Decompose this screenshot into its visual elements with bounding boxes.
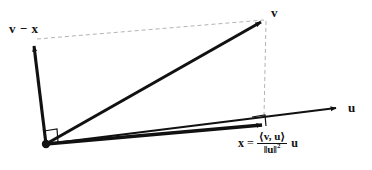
origin-point <box>42 140 50 148</box>
vector-projection-diagram: v − x v u x = ⟨v, u⟩ ‖u‖2 u <box>0 0 372 170</box>
formula-lhs-variable: x <box>238 137 244 149</box>
label-u: u <box>348 101 355 114</box>
label-v: v <box>271 6 278 19</box>
formula-denominator-exponent: 2 <box>277 142 281 150</box>
formula-denominator-norm: ‖u‖ <box>264 143 277 155</box>
dashed-line-vminusx-to-v <box>37 20 264 39</box>
formula-trailing-factor: u <box>291 137 298 149</box>
label-x-projection-formula: x = ⟨v, u⟩ ‖u‖2 u <box>238 131 298 155</box>
formula-fraction: ⟨v, u⟩ ‖u‖2 <box>257 131 288 155</box>
formula-denominator: ‖u‖2 <box>262 144 283 156</box>
label-v-minus-x: v − x <box>9 22 38 35</box>
v-minus-x-vector <box>34 46 46 144</box>
v-vector <box>46 22 261 144</box>
formula-equals-sign: = <box>247 137 254 149</box>
x-projection-vector <box>46 125 262 144</box>
dashed-line-v-to-projection <box>264 21 266 117</box>
vector-diagram-canvas <box>0 0 372 170</box>
formula-numerator: ⟨v, u⟩ <box>257 131 288 143</box>
